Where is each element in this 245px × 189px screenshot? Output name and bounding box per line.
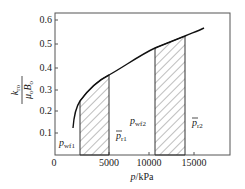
svg-text:pr1: pr1	[115, 130, 127, 143]
svg-text:0.4: 0.4	[40, 62, 53, 73]
annotation-pwf2: pwf2	[129, 115, 146, 128]
y-axis-label: kro μoBo	[9, 76, 35, 104]
x-axis-tick-labels: 0 5000 10000 15000	[52, 157, 207, 168]
chart: 0.1 0.2 0.3 0.4 0.5 0.6 0 5000 10000 150…	[0, 0, 245, 189]
annotation-pr2: pr2	[191, 117, 203, 130]
annotation-pwf1: pwf1	[58, 137, 75, 150]
svg-text:15000: 15000	[182, 157, 207, 168]
svg-text:μoBo: μoBo	[22, 80, 35, 100]
annotation-pr1: pr1	[115, 130, 127, 143]
svg-text:0.3: 0.3	[40, 84, 53, 95]
svg-text:5000: 5000	[99, 157, 119, 168]
svg-text:0.2: 0.2	[40, 105, 53, 116]
hatched-region-2	[155, 36, 185, 155]
x-axis-label: p/kPa	[130, 171, 154, 182]
hatched-region-1	[80, 75, 109, 155]
svg-text:pr2: pr2	[191, 117, 203, 130]
svg-text:0: 0	[52, 157, 57, 168]
svg-text:kro: kro	[9, 84, 22, 95]
svg-text:0.1: 0.1	[40, 127, 53, 138]
svg-text:10000: 10000	[137, 157, 162, 168]
y-axis-tick-labels: 0.1 0.2 0.3 0.4 0.5 0.6	[40, 14, 53, 138]
svg-text:0.6: 0.6	[40, 14, 53, 25]
svg-text:0.5: 0.5	[40, 38, 53, 49]
